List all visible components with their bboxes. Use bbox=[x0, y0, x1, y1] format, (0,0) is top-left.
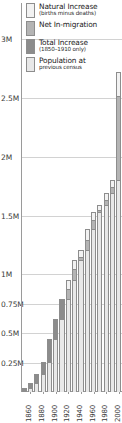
legend-sublabel: previous census bbox=[39, 65, 86, 71]
x-axis-tick-mark bbox=[68, 392, 69, 394]
legend-item: Population atprevious census bbox=[26, 57, 98, 72]
legend-item: Natural Increase(births minus deaths) bbox=[26, 3, 98, 18]
bar-1930 bbox=[72, 260, 77, 392]
bar-1890 bbox=[47, 339, 52, 392]
bar-segment-population-at-previous-census bbox=[85, 250, 90, 392]
bar-1900 bbox=[53, 319, 58, 392]
y-axis-tick-label: 2.5M bbox=[1, 94, 19, 103]
bar-1920 bbox=[66, 280, 71, 392]
legend-text: Total Increase(1850–1910 only) bbox=[39, 39, 88, 53]
x-axis-tick-label: 1940 bbox=[76, 405, 84, 422]
bar-segment-net-in-migration bbox=[66, 289, 71, 300]
bar-1970 bbox=[97, 205, 102, 392]
legend-sublabel: (1850–1910 only) bbox=[39, 47, 88, 53]
legend-label: Net In-migration bbox=[39, 21, 97, 29]
y-axis-tick-label: 1.5M bbox=[1, 211, 19, 220]
bar-segment-population-at-previous-census bbox=[97, 212, 102, 392]
bar-segment-natural-increase-births-minus-deaths bbox=[66, 280, 71, 288]
legend-sublabel: (births minus deaths) bbox=[39, 11, 98, 17]
bar-segment-population-at-previous-census bbox=[72, 280, 77, 392]
bar-segment-natural-increase-births-minus-deaths bbox=[104, 193, 109, 199]
chart-legend: Natural Increase(births minus deaths)Net… bbox=[26, 3, 98, 75]
bar-segment-population-at-previous-census bbox=[78, 260, 83, 392]
bar-segment-net-in-migration bbox=[104, 200, 109, 205]
bar-1880 bbox=[41, 362, 46, 392]
legend-text: Natural Increase(births minus deaths) bbox=[39, 3, 98, 17]
y-axis-tick-label: 2M bbox=[1, 152, 12, 161]
bar-segment-total-increase-1850-1910-only bbox=[47, 339, 52, 362]
bar-segment-natural-increase-births-minus-deaths bbox=[78, 250, 83, 257]
bar-1990 bbox=[110, 180, 115, 392]
bar-segment-population-at-previous-census bbox=[110, 193, 115, 392]
bar-segment-population-at-previous-census bbox=[53, 339, 58, 392]
legend-swatch-icon bbox=[26, 21, 35, 36]
bar-segment-population-at-previous-census bbox=[104, 205, 109, 392]
bar-segment-total-increase-1850-1910-only bbox=[41, 362, 46, 374]
x-axis-tick-label: 2000 bbox=[114, 405, 122, 422]
bar-2000 bbox=[116, 72, 121, 392]
bar-segment-natural-increase-births-minus-deaths bbox=[110, 180, 115, 186]
legend-swatch-icon bbox=[26, 57, 35, 72]
bar-1870 bbox=[34, 374, 39, 392]
bar-segment-population-at-previous-census bbox=[91, 229, 96, 392]
x-axis-tick-mark bbox=[119, 392, 120, 394]
bar-segment-natural-increase-births-minus-deaths bbox=[91, 212, 96, 220]
x-axis-tick-mark bbox=[30, 392, 31, 394]
x-axis-tick-mark bbox=[106, 392, 107, 394]
bar-1910 bbox=[59, 299, 64, 392]
bar-1950 bbox=[85, 229, 90, 392]
x-axis-tick-label: 1900 bbox=[51, 405, 59, 422]
legend-swatch-icon bbox=[26, 39, 35, 54]
y-axis-tick-label: 0.5M bbox=[1, 329, 19, 338]
legend-item: Total Increase(1850–1910 only) bbox=[26, 39, 98, 54]
y-axis-tick-label: 1M bbox=[1, 270, 12, 279]
bar-segment-total-increase-1850-1910-only bbox=[34, 374, 39, 382]
bar-segment-population-at-previous-census bbox=[34, 383, 39, 392]
x-axis-tick-mark bbox=[56, 392, 57, 394]
legend-swatch-icon bbox=[26, 3, 35, 18]
x-axis-tick-label: 1980 bbox=[101, 405, 109, 422]
x-axis-tick-mark bbox=[94, 392, 95, 394]
bar-1860 bbox=[28, 383, 33, 392]
bar-segment-net-in-migration bbox=[72, 269, 77, 280]
bar-segment-natural-increase-births-minus-deaths bbox=[116, 72, 121, 96]
bar-segment-total-increase-1850-1910-only bbox=[53, 319, 58, 339]
legend-text: Population atprevious census bbox=[39, 57, 86, 71]
x-axis-tick-label: 1880 bbox=[38, 405, 46, 422]
bar-segment-total-increase-1850-1910-only bbox=[59, 299, 64, 319]
bar-segment-total-increase-1850-1910-only bbox=[28, 383, 33, 388]
bar-segment-net-in-migration bbox=[91, 220, 96, 229]
bar-1960 bbox=[91, 212, 96, 392]
bar-segment-population-at-previous-census bbox=[59, 319, 64, 392]
bar-segment-population-at-previous-census bbox=[116, 180, 121, 392]
x-axis-tick-mark bbox=[43, 392, 44, 394]
bar-segment-net-in-migration bbox=[78, 257, 83, 261]
bar-segment-net-in-migration bbox=[110, 187, 115, 193]
bar-segment-natural-increase-births-minus-deaths bbox=[85, 229, 90, 240]
legend-item: Net In-migration bbox=[26, 21, 98, 36]
bar-segment-net-in-migration bbox=[116, 96, 121, 181]
bar-1940 bbox=[78, 250, 83, 392]
x-axis-labels: 18601880190019201940196019802000 bbox=[21, 392, 122, 423]
x-axis-tick-label: 1860 bbox=[25, 405, 33, 422]
y-axis-tick-label: 3M bbox=[1, 35, 12, 44]
x-axis-tick-label: 1920 bbox=[63, 405, 71, 422]
bar-segment-population-at-previous-census bbox=[66, 299, 71, 392]
bar-segment-net-in-migration bbox=[97, 210, 102, 212]
bar-segment-population-at-previous-census bbox=[41, 374, 46, 392]
bar-segment-net-in-migration bbox=[85, 240, 90, 250]
bar-1980 bbox=[104, 193, 109, 392]
population-growth-stacked-bar-chart: 3M2.5M2M1.5M1M0.75M0.5M0.25M 18601880190… bbox=[0, 0, 122, 423]
x-axis-tick-mark bbox=[81, 392, 82, 394]
bar-segment-population-at-previous-census bbox=[47, 362, 52, 392]
x-axis-tick-label: 1960 bbox=[89, 405, 97, 422]
bar-segment-natural-increase-births-minus-deaths bbox=[72, 260, 77, 269]
legend-text: Net In-migration bbox=[39, 21, 97, 29]
bar-segment-natural-increase-births-minus-deaths bbox=[97, 205, 102, 210]
